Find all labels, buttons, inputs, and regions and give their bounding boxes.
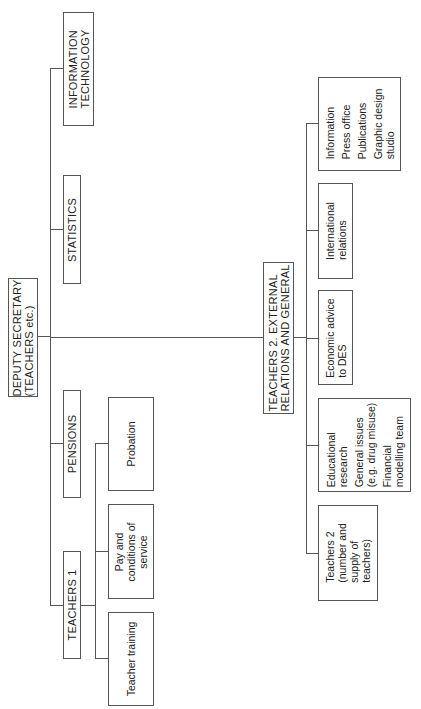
node-label: conditions of [125, 522, 137, 581]
node-economic-advice: Economic advice to DES [318, 290, 353, 385]
node-educational-research: Educational research General issues (e.g… [318, 398, 411, 492]
node-teacher-training: Teacher training [108, 612, 154, 706]
node-label: TEACHERS 2. EXTERNAL [267, 264, 279, 411]
node-label: STATISTICS [66, 198, 78, 262]
probation-connector [95, 443, 108, 444]
statistics-connector [50, 229, 63, 230]
node-label: (e.g. drug misuse) [365, 403, 377, 488]
information-connector [306, 123, 318, 124]
node-label: General issues [353, 403, 365, 488]
node-label: Pay and [113, 522, 125, 581]
it-connector [50, 68, 63, 69]
node-label: modelling team [393, 403, 405, 488]
node-label: Probation [125, 422, 137, 467]
node-label: to DES [336, 298, 348, 377]
node-label: service [137, 522, 149, 581]
node-international-relations: International relations [318, 183, 353, 279]
pensions-connector [50, 443, 63, 444]
node-label: PENSIONS [66, 415, 78, 473]
node-label: (TEACHERS etc.) [23, 279, 35, 396]
node-label: International [324, 202, 336, 260]
node-label: Information [324, 89, 336, 160]
node-label: relations [336, 202, 348, 260]
node-label: INFORMATION [67, 29, 79, 108]
node-label: (number and [336, 523, 348, 583]
node-label: Teacher training [125, 622, 137, 697]
root-connector [37, 336, 51, 337]
economic-connector [306, 338, 318, 339]
node-label: TEACHERS 1 [66, 569, 78, 640]
node-teachers-2: TEACHERS 2. EXTERNAL RELATIONS AND GENER… [263, 262, 294, 414]
teachers1-sub-connector [80, 605, 95, 606]
node-label: research [337, 403, 349, 488]
node-teachers-2-supply: Teachers 2 (number and supply of teacher… [318, 505, 378, 601]
node-label: Economic advice [324, 298, 336, 377]
node-probation: Probation [108, 397, 154, 491]
training-connector [95, 658, 108, 659]
node-pay-and-conditions: Pay and conditions of service [108, 504, 154, 599]
node-information-technology: INFORMATION TECHNOLOGY [63, 12, 94, 126]
teachers1-connector [50, 605, 63, 606]
node-label: RELATIONS AND GENERAL [279, 264, 291, 411]
pay-connector [95, 551, 108, 552]
node-label: Teachers 2 [324, 523, 336, 583]
teachers2-sub-connector [293, 337, 306, 338]
node-label: Educational [325, 403, 337, 488]
teachers2-supply-connector [306, 553, 318, 554]
international-connector [306, 230, 318, 231]
node-label: DEPUTY SECRETARY [11, 279, 23, 396]
root-to-teachers2-line [50, 337, 263, 338]
node-label: teachers) [360, 523, 372, 583]
node-label: studio [384, 89, 396, 160]
node-label: Press office [340, 89, 352, 160]
node-statistics: STATISTICS [63, 175, 81, 284]
node-deputy-secretary: DEPUTY SECRETARY (TEACHERS etc.) [8, 278, 38, 397]
node-label: Publications [356, 89, 368, 160]
node-teachers-1: TEACHERS 1 [63, 551, 81, 659]
node-pensions: PENSIONS [63, 390, 81, 498]
node-label: Graphic design [372, 89, 384, 160]
node-label: Financial [381, 403, 393, 488]
node-label: TECHNOLOGY [79, 29, 91, 108]
research-connector [306, 445, 318, 446]
node-information-press: Information Press office Publications Gr… [318, 77, 401, 171]
node-label: supply of [348, 523, 360, 583]
